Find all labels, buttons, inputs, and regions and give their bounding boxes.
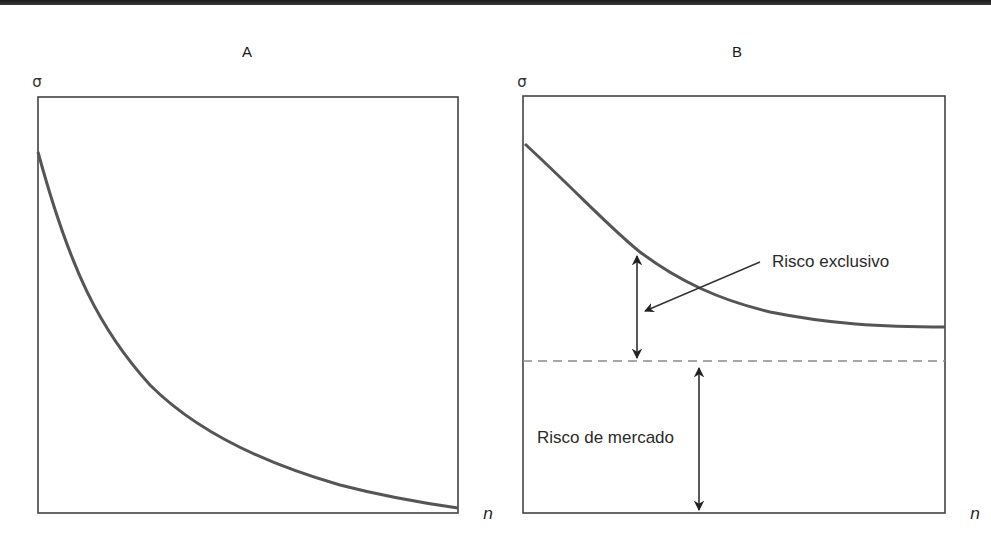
panel-a-y-axis-label: σ bbox=[32, 73, 42, 91]
panel-b-total-risk-curve bbox=[525, 144, 945, 327]
panel-b: B σ Risco exclusivo Risco de mercado n bbox=[517, 43, 980, 523]
panel-a-x-axis-label: n bbox=[483, 504, 493, 523]
panel-a-title: A bbox=[242, 43, 252, 60]
panel-a: A σ n bbox=[32, 43, 493, 523]
diversification-diagram: A σ n B σ Risco exclusivo Risco de merca… bbox=[0, 0, 991, 559]
panel-b-y-axis-label: σ bbox=[517, 73, 527, 91]
panel-b-frame bbox=[523, 96, 945, 513]
panel-a-total-risk-curve bbox=[38, 152, 458, 508]
panel-b-title: B bbox=[732, 43, 742, 60]
panel-b-x-axis-label: n bbox=[970, 504, 980, 523]
unique-risk-label: Risco exclusivo bbox=[772, 252, 889, 271]
market-risk-label: Risco de mercado bbox=[537, 428, 674, 447]
